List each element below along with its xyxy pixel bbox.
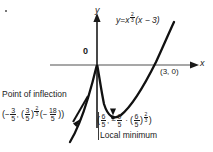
min-base-num: 6 (134, 113, 140, 120)
x-intercept-label: (3, 0) (160, 68, 179, 76)
poi-exponent: 23 (34, 108, 40, 114)
poi-y-den: 5 (50, 114, 56, 122)
y-axis-label: y (95, 6, 100, 15)
min-exp-den: 3 (144, 117, 149, 123)
poi-x-sign: − (5, 110, 10, 119)
poi-base-num: 3 (25, 107, 31, 114)
graph-figure: y x 0 y=x23(x − 3) (3, 0) Point of infle… (0, 0, 213, 152)
function-equation: y=x23(x − 3) (116, 12, 160, 24)
minimum-title-label: Local minimum (100, 131, 157, 140)
poi-y-num: 18 (48, 107, 58, 114)
exponent-denominator: 3 (130, 17, 135, 23)
min-x-den: 5 (101, 120, 107, 128)
poi-y-sign: − (43, 110, 48, 119)
min-comma: , (107, 116, 109, 125)
poi-exp-den: 3 (34, 111, 39, 117)
equation-exponent: 23 (129, 14, 135, 20)
poi-close-paren: ) (61, 109, 64, 119)
poi-base-den: 5 (25, 114, 31, 122)
inflection-title-label: Point of inflection (2, 90, 67, 99)
x-axis-label: x (200, 59, 205, 68)
min-y-num: 9 (117, 113, 123, 120)
min-exponent: 23 (143, 114, 149, 120)
poi-comma: , (17, 110, 19, 119)
min-base-den: 5 (134, 120, 140, 128)
min-y-den: 5 (117, 120, 123, 128)
minimum-coordinates: (65, −95 · (65)23) (97, 112, 152, 128)
min-x-num: 6 (101, 113, 107, 120)
origin-label: 0 (83, 47, 88, 56)
min-dot-operator: · (125, 116, 128, 125)
equation-factor: (x − 3) (135, 15, 159, 25)
inflection-coordinates: (−35, (35)23(−185)) (2, 106, 64, 122)
min-y-sign: − (111, 116, 116, 125)
poi-x-den: 5 (10, 114, 16, 122)
poi-x-num: 3 (10, 107, 16, 114)
min-close-paren: ) (149, 115, 152, 125)
